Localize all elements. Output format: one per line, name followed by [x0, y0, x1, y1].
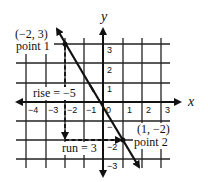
svg-text:−3: −3: [107, 161, 117, 171]
point-1-marker: [63, 42, 68, 47]
rise-label: rise = −5: [33, 86, 76, 100]
point-2-marker: [121, 138, 126, 143]
svg-text:−4: −4: [28, 105, 38, 115]
svg-text:2: 2: [146, 105, 151, 115]
x-axis-label: x: [187, 94, 195, 109]
point-2-coords: (1, −2): [137, 122, 170, 136]
svg-text:2: 2: [107, 65, 112, 75]
x-tick-labels: −4 −3 −2 −1 0 1 2 3: [28, 105, 170, 115]
run-label: run = 3: [62, 141, 97, 155]
svg-text:−: −: [107, 122, 112, 132]
svg-text:3: 3: [165, 105, 170, 115]
svg-text:−1: −1: [86, 105, 96, 115]
point-1-label: point 1: [16, 39, 50, 53]
y-axis-label: y: [99, 9, 108, 24]
slope-diagram: x y −4 −3 −2 −1 0 1 2 3 3 2 1 − −2 −3 (−…: [0, 0, 208, 182]
svg-text:3: 3: [107, 45, 112, 55]
svg-text:−2: −2: [107, 142, 117, 152]
svg-text:−2: −2: [67, 105, 77, 115]
svg-text:1: 1: [107, 84, 112, 94]
svg-text:1: 1: [127, 105, 132, 115]
point-2-label: point 2: [134, 135, 168, 149]
svg-text:−3: −3: [48, 105, 58, 115]
